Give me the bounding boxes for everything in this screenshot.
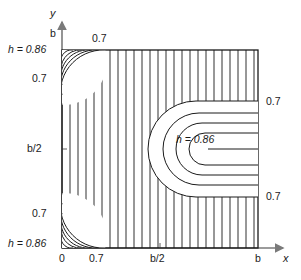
x-axis-label: x (283, 253, 289, 264)
x-tick-label-0: 0 (59, 253, 65, 264)
central-nested-contours (148, 101, 258, 197)
contour-label-top-edge-07: 0.7 (92, 33, 107, 44)
contour-label-right-upper-07: 0.7 (266, 96, 281, 107)
contour-plot-figure: b h = 0.86 0.7 b/2 0.7 h = 0.86 y 0.7 0.… (0, 0, 301, 280)
y-tick-label-half: b/2 (27, 143, 42, 154)
top-left-corner-arcs (60, 50, 106, 105)
x-tick-label-07: 0.7 (89, 253, 104, 264)
x-tick-label-half: b/2 (150, 253, 165, 264)
contour-label-right-lower-07: 0.7 (266, 191, 281, 202)
bottom-left-corner-arcs (60, 193, 106, 248)
contour-label-top-left-07: 0.7 (32, 73, 47, 84)
contour-lines-group (60, 50, 258, 248)
contour-label-bottom-left-corner: h = 0.86 (8, 238, 46, 249)
contour-label-center: h = 0.86 (176, 134, 214, 145)
contour-label-top-left-corner: h = 0.86 (8, 44, 46, 55)
contour-label-bottom-left-07: 0.7 (32, 208, 47, 219)
y-tick-label-b-top: b (50, 28, 56, 39)
y-axis-label: y (50, 8, 56, 19)
x-tick-label-b: b (255, 253, 261, 264)
